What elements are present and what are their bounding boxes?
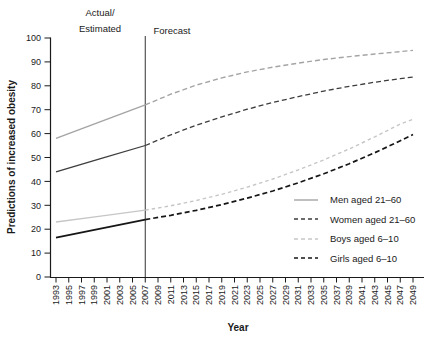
- series-actual-0: [56, 105, 145, 138]
- x-tick-label: 2027: [268, 285, 278, 305]
- legend-item-2: Boys aged 6–10: [294, 229, 415, 249]
- x-tick-label: 1997: [77, 285, 87, 305]
- x-tick-label: 1999: [89, 285, 99, 305]
- series-actual-3: [56, 220, 145, 238]
- x-tick-label: 2003: [115, 285, 125, 305]
- legend-label: Women aged 21–60: [330, 214, 415, 225]
- x-tick-label: 2049: [408, 285, 418, 305]
- series-forecast-0: [145, 50, 413, 105]
- x-tick-label: 2035: [319, 285, 329, 305]
- x-tick-label: 2037: [332, 285, 342, 305]
- x-tick-label: 2047: [395, 285, 405, 305]
- legend-label: Men aged 21–60: [330, 194, 401, 205]
- y-tick-label: 80: [31, 81, 41, 91]
- x-tick-label: 1995: [64, 285, 74, 305]
- x-tick-label: 2025: [255, 285, 265, 305]
- annotation-actual-estimated-line2: Estimated: [79, 23, 121, 34]
- chart-canvas: 0102030405060708090100199319951997199920…: [0, 0, 436, 340]
- legend-marker-solid-line: [294, 196, 320, 204]
- x-tick-label: 2033: [306, 285, 316, 305]
- x-tick-label: 2029: [281, 285, 291, 305]
- y-tick-label: 50: [31, 153, 41, 163]
- x-tick-label: 2009: [153, 285, 163, 305]
- y-tick-label: 90: [31, 57, 41, 67]
- x-tick-label: 2001: [102, 285, 112, 305]
- legend-item-3: Girls aged 6–10: [294, 249, 415, 269]
- x-tick-label: 2019: [217, 285, 227, 305]
- y-tick-label: 40: [31, 177, 41, 187]
- legend-label: Boys aged 6–10: [330, 233, 399, 244]
- legend: Men aged 21–60Women aged 21–60Boys aged …: [294, 190, 415, 268]
- y-tick-label: 60: [31, 129, 41, 139]
- legend-marker-dashed-line: [294, 215, 320, 223]
- y-tick-label: 20: [31, 224, 41, 234]
- annotation-forecast: Forecast: [154, 25, 191, 36]
- x-tick-label: 2041: [357, 285, 367, 305]
- x-tick-label: 2005: [128, 285, 138, 305]
- y-tick-label: 70: [31, 105, 41, 115]
- x-tick-label: 2013: [179, 285, 189, 305]
- y-axis-title: Predictions of increased obesity: [6, 80, 17, 234]
- x-tick-label: 2039: [344, 285, 354, 305]
- x-tick-label: 2043: [370, 285, 380, 305]
- annotation-actual-estimated-line1: Actual/: [85, 7, 114, 18]
- series-forecast-1: [145, 77, 413, 146]
- y-tick-label: 100: [26, 33, 41, 43]
- legend-label: Girls aged 6–10: [330, 253, 397, 264]
- legend-marker-dashed-line: [294, 235, 320, 243]
- y-tick-label: 10: [31, 248, 41, 258]
- obesity-forecast-chart: 0102030405060708090100199319951997199920…: [0, 0, 436, 340]
- x-tick-label: 1993: [51, 285, 61, 305]
- series-actual-2: [56, 210, 145, 222]
- x-axis-title: Year: [227, 322, 248, 333]
- x-tick-label: 2021: [230, 285, 240, 305]
- x-tick-label: 2045: [383, 285, 393, 305]
- x-tick-label: 2015: [191, 285, 201, 305]
- x-tick-label: 2011: [166, 285, 176, 304]
- y-tick-label: 0: [36, 272, 41, 282]
- x-tick-label: 2023: [242, 285, 252, 305]
- legend-item-0: Men aged 21–60: [294, 190, 415, 210]
- y-tick-label: 30: [31, 201, 41, 211]
- x-tick-label: 2031: [293, 285, 303, 305]
- x-tick-label: 2017: [204, 285, 214, 305]
- series-actual-1: [56, 146, 145, 172]
- legend-marker-dashed-line: [294, 254, 320, 262]
- legend-item-1: Women aged 21–60: [294, 210, 415, 230]
- x-tick-label: 2007: [140, 285, 150, 305]
